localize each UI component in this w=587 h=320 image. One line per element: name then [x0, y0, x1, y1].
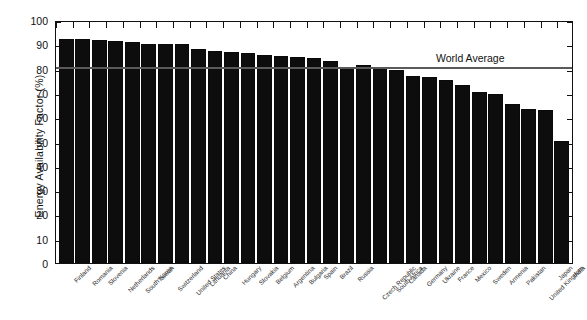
world-average-label: World Average	[436, 52, 505, 64]
y-tick-label: 70	[8, 89, 48, 100]
bar	[554, 141, 569, 263]
bar	[158, 44, 173, 263]
bar	[439, 80, 454, 263]
bar	[241, 53, 256, 263]
bar	[488, 94, 503, 263]
bar	[422, 77, 437, 263]
bar	[141, 44, 156, 263]
bar	[389, 70, 404, 263]
y-tick-label: 10	[8, 235, 48, 246]
y-tick-label: 0	[8, 259, 48, 270]
bar	[274, 56, 289, 263]
bar	[75, 39, 90, 263]
y-tick-label: 80	[8, 65, 48, 76]
bar	[307, 58, 322, 263]
bar	[323, 61, 338, 263]
x-axis-category-labels: FinlandRomaniaSloveniaNetherlandsSouth K…	[55, 265, 573, 320]
y-tick-label: 20	[8, 210, 48, 221]
bar	[455, 85, 470, 263]
y-tick-label: 60	[8, 113, 48, 124]
x-axis-label: Russia	[357, 265, 375, 283]
bar	[373, 67, 388, 263]
y-tick-label: 30	[8, 186, 48, 197]
y-tick-label: 100	[8, 16, 48, 27]
x-axis-label: Finland	[73, 265, 92, 284]
bar	[125, 42, 140, 263]
bar	[92, 40, 107, 263]
bar	[472, 92, 487, 263]
bar	[356, 65, 371, 263]
bar	[191, 49, 206, 263]
y-tick-label: 40	[8, 162, 48, 173]
x-axis-label: India	[572, 265, 586, 279]
bar	[257, 55, 272, 263]
x-axis-label: Taiwan	[156, 265, 175, 284]
bar	[59, 39, 74, 263]
bar	[538, 110, 553, 263]
y-tick-label: 50	[8, 138, 48, 149]
x-axis-label: Mexico	[474, 265, 493, 284]
bar	[340, 67, 355, 263]
bar	[108, 41, 123, 263]
y-tick-label: 90	[8, 40, 48, 51]
world-average-line	[56, 67, 572, 69]
x-axis-label: Brazil	[339, 265, 355, 281]
bar	[290, 57, 305, 263]
bar	[208, 51, 223, 263]
bar	[224, 52, 239, 263]
bar	[521, 109, 536, 263]
bar	[505, 104, 520, 263]
bar	[406, 76, 421, 263]
bar	[175, 44, 190, 263]
